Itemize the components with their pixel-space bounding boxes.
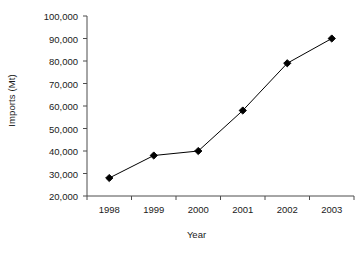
x-tick-label: 2002 — [277, 204, 298, 215]
x-tick-label: 1999 — [143, 204, 164, 215]
chart-container: Imports (Mt) 100,00090,00080,00070,00060… — [0, 0, 363, 256]
x-tick-label: 2000 — [188, 204, 209, 215]
x-axis-title: Year — [0, 229, 363, 240]
x-tick-label: 2003 — [321, 204, 342, 215]
x-tick-label: 2001 — [232, 204, 253, 215]
x-tick-label: 1998 — [99, 204, 120, 215]
x-axis-tick-labels: 199819992000200120022003 — [0, 0, 363, 256]
x-axis-title-text: Year — [157, 229, 206, 240]
